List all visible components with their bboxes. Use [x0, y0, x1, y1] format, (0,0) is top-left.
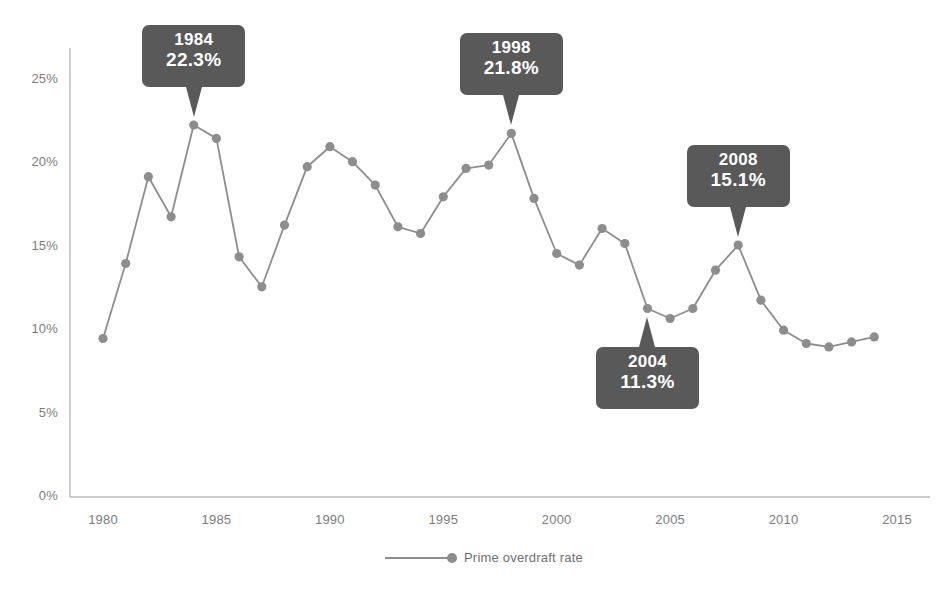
- data-point-2005[interactable]: [666, 314, 675, 323]
- y-axis-tick-20pct: 20%: [10, 154, 58, 169]
- data-point-2013[interactable]: [847, 337, 856, 346]
- legend-swatch-prime-overdraft-rate: [385, 552, 457, 564]
- annotation-value: 11.3%: [606, 371, 689, 392]
- chart-legend: Prime overdraft rate: [385, 550, 583, 565]
- data-point-1989[interactable]: [303, 162, 312, 171]
- data-point-2010[interactable]: [779, 326, 788, 335]
- x-axis-tick-2000: 2000: [527, 512, 587, 527]
- data-point-1987[interactable]: [257, 282, 266, 291]
- y-axis-tick-10pct: 10%: [10, 321, 58, 336]
- annotation-pointer-1998: [503, 95, 519, 125]
- y-axis-tick-25pct: 25%: [10, 71, 58, 86]
- data-point-1980[interactable]: [98, 334, 107, 343]
- annotation-callout-2008[interactable]: 200815.1%: [687, 145, 790, 207]
- data-point-1998[interactable]: [507, 129, 516, 138]
- annotation-callout-2004[interactable]: 200411.3%: [596, 347, 699, 409]
- annotation-year: 1984: [152, 30, 235, 49]
- data-point-1984[interactable]: [189, 120, 198, 129]
- x-axis-tick-1995: 1995: [413, 512, 473, 527]
- data-point-1982[interactable]: [144, 172, 153, 181]
- x-axis-tick-1980: 1980: [73, 512, 133, 527]
- data-point-2004[interactable]: [643, 304, 652, 313]
- data-point-1995[interactable]: [439, 192, 448, 201]
- data-point-2008[interactable]: [734, 241, 743, 250]
- data-point-1985[interactable]: [212, 134, 221, 143]
- annotation-value: 22.3%: [152, 49, 235, 70]
- data-point-2002[interactable]: [598, 224, 607, 233]
- legend-label: Prime overdraft rate: [464, 550, 583, 565]
- annotation-pointer-2004: [639, 317, 655, 347]
- x-axis-tick-1985: 1985: [186, 512, 246, 527]
- y-axis-tick-5pct: 5%: [10, 405, 58, 420]
- prime-overdraft-rate-chart: 0%5%10%15%20%25% 19801985199019952000200…: [0, 0, 950, 604]
- legend-marker-icon: [447, 553, 457, 563]
- annotation-callout-1984[interactable]: 198422.3%: [142, 25, 245, 87]
- data-point-1981[interactable]: [121, 259, 130, 268]
- data-point-1992[interactable]: [371, 181, 380, 190]
- data-point-1997[interactable]: [484, 161, 493, 170]
- annotation-value: 15.1%: [697, 169, 780, 190]
- data-point-1996[interactable]: [461, 164, 470, 173]
- annotation-pointer-2008: [730, 207, 746, 237]
- annotation-value: 21.8%: [470, 57, 553, 78]
- data-point-1988[interactable]: [280, 221, 289, 230]
- y-axis-tick-0pct: 0%: [10, 488, 58, 503]
- data-point-1993[interactable]: [393, 222, 402, 231]
- annotation-year: 2008: [697, 150, 780, 169]
- data-point-1990[interactable]: [325, 142, 334, 151]
- x-axis-tick-2015: 2015: [867, 512, 927, 527]
- x-axis-tick-1990: 1990: [300, 512, 360, 527]
- x-axis-tick-2010: 2010: [754, 512, 814, 527]
- annotation-pointer-1984: [186, 87, 202, 117]
- data-point-1986[interactable]: [235, 252, 244, 261]
- data-point-2011[interactable]: [802, 339, 811, 348]
- annotation-year: 2004: [606, 352, 689, 371]
- data-point-2009[interactable]: [756, 296, 765, 305]
- data-point-2014[interactable]: [870, 332, 879, 341]
- data-point-2001[interactable]: [575, 261, 584, 270]
- x-axis-tick-2005: 2005: [640, 512, 700, 527]
- data-point-1983[interactable]: [167, 212, 176, 221]
- data-point-2012[interactable]: [824, 342, 833, 351]
- data-point-1999[interactable]: [529, 194, 538, 203]
- y-axis-tick-15pct: 15%: [10, 238, 58, 253]
- annotation-year: 1998: [470, 38, 553, 57]
- data-point-2003[interactable]: [620, 239, 629, 248]
- data-point-2007[interactable]: [711, 266, 720, 275]
- data-point-1994[interactable]: [416, 229, 425, 238]
- data-point-1991[interactable]: [348, 157, 357, 166]
- annotation-callout-1998[interactable]: 199821.8%: [460, 33, 563, 95]
- data-point-2006[interactable]: [688, 304, 697, 313]
- data-point-2000[interactable]: [552, 249, 561, 258]
